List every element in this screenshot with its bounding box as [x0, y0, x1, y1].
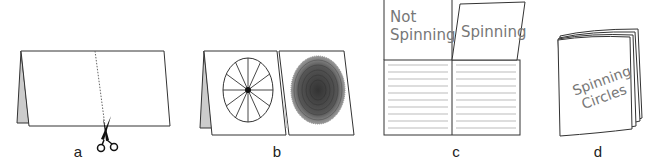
spoked-wheel-icon	[223, 58, 273, 122]
step-label-a: a	[68, 143, 88, 160]
step-a-folded-sheet	[17, 51, 170, 126]
figure-canvas: Not Spinning Spinning Spinning Circles	[0, 0, 657, 165]
flap-left-line2: Spinning	[390, 26, 455, 44]
step-label-c: c	[446, 143, 466, 160]
step-label-b: b	[267, 143, 287, 160]
step-c-open-booklet: Not Spinning Spinning	[384, 0, 526, 135]
step-d-booklet-cover: Spinning Circles	[558, 29, 642, 136]
flap-right-label: Spinning	[461, 23, 526, 41]
flap-left-line1: Not	[390, 8, 416, 26]
blurred-wheel-icon	[291, 56, 345, 124]
step-label-d: d	[588, 143, 608, 160]
